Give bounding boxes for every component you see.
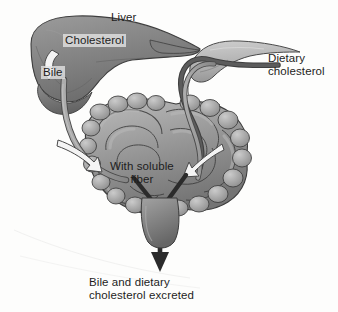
label-fiber-line1: With soluble [110, 160, 174, 172]
anatomy-illustration [0, 0, 338, 312]
rectum-outlet [141, 198, 179, 248]
label-liver: Liver [111, 11, 136, 24]
label-excreted: Bile and dietary cholesterol excreted [89, 276, 194, 302]
label-dietary-line2: cholesterol [268, 65, 325, 77]
label-bile: Bile [41, 66, 65, 79]
label-excreted-line1: Bile and dietary [89, 276, 170, 288]
label-cholesterol: Cholesterol [63, 34, 126, 47]
label-soluble-fiber: With soluble fiber [110, 160, 174, 186]
diagram-canvas: Liver Cholesterol Bile Dietary cholester… [0, 0, 338, 312]
label-dietary-line1: Dietary [268, 52, 305, 64]
label-excreted-line2: cholesterol excreted [89, 289, 194, 301]
label-fiber-line2: fiber [130, 173, 153, 185]
label-dietary-cholesterol: Dietary cholesterol [268, 52, 325, 78]
